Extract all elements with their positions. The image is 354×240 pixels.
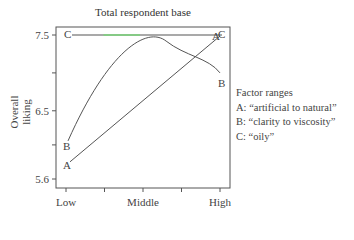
legend-item-b: B: “clarity to viscosity” xyxy=(236,115,337,130)
series-c-start-label: C xyxy=(64,28,71,40)
y-tick-label: 7.5 xyxy=(35,29,49,41)
y-tick-label: 5.6 xyxy=(35,173,49,185)
series-b-end-label: B xyxy=(218,77,225,89)
legend-item-c: C: “oily” xyxy=(236,130,337,145)
x-tick-label: Low xyxy=(56,196,76,208)
x-tick-label: Middle xyxy=(127,196,159,208)
series-c-end-label: C xyxy=(218,28,225,40)
series-a-start-label: A xyxy=(63,159,71,171)
series-lines xyxy=(68,35,222,162)
legend-heading: Factor ranges xyxy=(236,86,337,101)
y-tick-label: 6.5 xyxy=(35,105,49,117)
legend: Factor ranges A: “artificial to natural”… xyxy=(236,86,337,144)
plot-frame xyxy=(56,27,230,188)
x-tick-label: High xyxy=(209,196,232,208)
axis-tick-labels: 7.56.55.6LowMiddleHighAABBCC xyxy=(35,28,231,208)
series-b-curve xyxy=(68,37,220,141)
series-a-line xyxy=(70,36,220,162)
axes xyxy=(52,27,230,192)
legend-item-a: A: “artificial to natural” xyxy=(236,101,337,116)
series-b-start-label: B xyxy=(63,140,70,152)
